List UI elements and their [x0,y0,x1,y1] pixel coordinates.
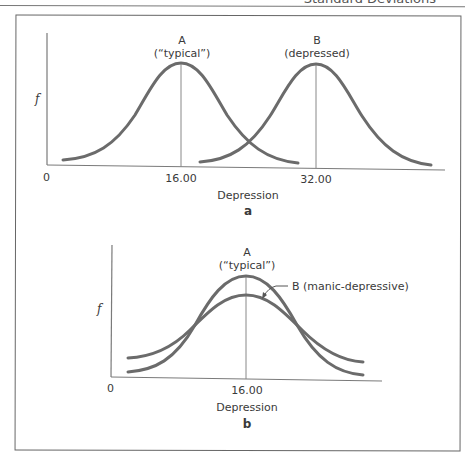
panel-b-caption: b [243,417,252,431]
panel-a-origin-label: 0 [43,171,50,184]
panel-a-tick-16: 16.00 [165,172,197,185]
panel-a-caption: a [244,204,252,218]
panel-b-x-axis-label: Depression [216,401,278,414]
figure-canvas: f 0 16.00 32.00 Depression a A (“typical… [0,0,476,458]
panel-b-y-axis [111,245,112,377]
panel-a-y-axis-label: f [34,92,42,106]
panel-a-curve-a-name: A [178,34,186,47]
panel-b: f 0 16.00 Depression b A (“typical”) B (… [96,245,409,431]
panel-a-tick-32: 32.00 [300,173,332,186]
panel-a-curve-b-sublabel: (depressed) [284,47,350,60]
panel-a-x-axis-label: Depression [217,189,279,202]
panel-b-origin-label: 0 [107,382,114,395]
panel-a-curve-a-sublabel: (“typical”) [154,47,211,60]
panel-b-curve-a-sublabel: (“typical”) [219,259,276,272]
panel-a-x-axis [47,165,445,170]
panel-b-tick-16: 16.00 [231,384,263,397]
panel-b-y-axis-label: f [96,302,104,316]
panel-b-curve-a-name: A [243,246,251,259]
panel-a: f 0 16.00 32.00 Depression a A (“typical… [34,33,445,218]
panel-b-curve-b-label: B (manic-depressive) [292,280,409,293]
panel-a-curve-b-name: B [313,34,321,47]
